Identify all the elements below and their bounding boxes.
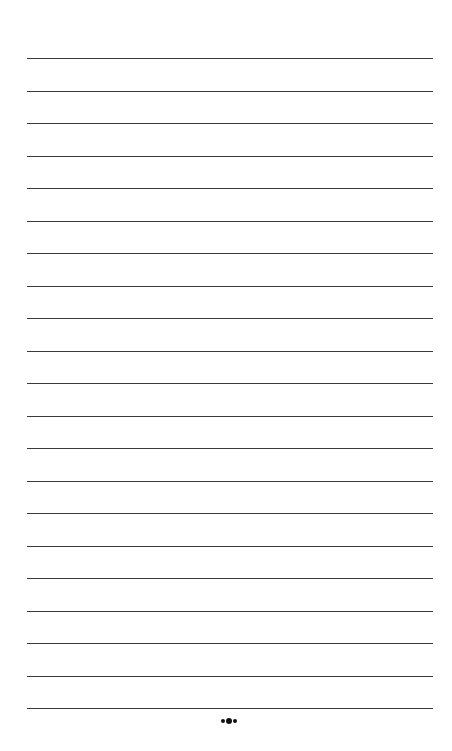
- ruled-line: [27, 676, 433, 677]
- lined-page: [0, 0, 452, 751]
- ruled-line: [27, 383, 433, 384]
- ruled-line: [27, 221, 433, 222]
- ruled-line: [27, 286, 433, 287]
- ruled-line: [27, 708, 433, 709]
- ruled-line: [27, 123, 433, 124]
- ruled-line: [27, 643, 433, 644]
- ruled-line: [27, 156, 433, 157]
- dot-icon: [221, 719, 225, 723]
- ruled-line: [27, 481, 433, 482]
- ruled-line: [27, 578, 433, 579]
- ruled-line: [27, 58, 433, 59]
- ruled-line: [27, 188, 433, 189]
- ruled-line: [27, 448, 433, 449]
- ruled-line: [27, 91, 433, 92]
- ruled-line: [27, 253, 433, 254]
- ruled-line: [27, 416, 433, 417]
- ruled-line: [27, 351, 433, 352]
- ruled-line: [27, 611, 433, 612]
- dot-icon: [233, 719, 237, 723]
- ruled-line: [27, 546, 433, 547]
- three-dots-icon: [219, 715, 239, 727]
- ruled-line: [27, 318, 433, 319]
- dot-icon: [226, 718, 232, 724]
- ruled-line: [27, 513, 433, 514]
